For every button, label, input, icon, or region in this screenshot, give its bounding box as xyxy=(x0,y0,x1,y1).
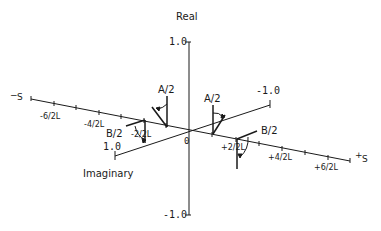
origin-label: 0 xyxy=(184,136,189,146)
real-axis-max-label: 1.0 xyxy=(169,36,187,47)
s-tick-label-pos4: +4/2L xyxy=(268,153,293,162)
imaginary-axis-label: Imaginary xyxy=(83,168,134,179)
s-tick-label-pos6: +6/2L xyxy=(314,163,339,172)
phasor-a-right-label: A/2 xyxy=(204,93,221,104)
s-tick-label-neg4: -4/2L xyxy=(84,120,105,129)
phasor-b-right-label: B/2 xyxy=(261,125,278,136)
s-axis-neg-label: S xyxy=(17,92,23,102)
s-tick-label-pos2: +2/2L xyxy=(221,143,246,152)
real-axis-min-label: -1.0 xyxy=(163,209,187,220)
s-axis-pos-label: S xyxy=(362,154,368,164)
phasor-a-left xyxy=(152,96,167,127)
imaginary-axis-near-label: 1.0 xyxy=(103,141,121,152)
imaginary-axis-far-label: -1.0 xyxy=(256,85,280,96)
phasor-a-right xyxy=(213,105,225,134)
phasor-diagram: Real 1.0 -1.0 − S + S -6/2L -4/2L -2/2L … xyxy=(0,0,381,231)
phasor-b-left-label: B/2 xyxy=(106,128,123,139)
s-axis xyxy=(31,99,350,161)
s-tick-label-neg6: -6/2L xyxy=(40,112,61,121)
s-tick-label-neg2: -2/2L xyxy=(131,130,152,139)
phasor-a-left-label: A/2 xyxy=(158,84,175,95)
real-axis-label: Real xyxy=(176,11,198,22)
